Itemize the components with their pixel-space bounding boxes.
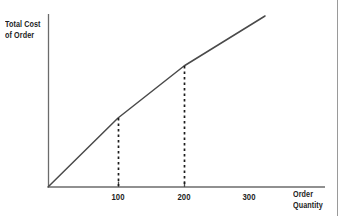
x-axis-label-line-1: Order [293, 190, 313, 199]
y-axis-label: Total Costof Order [5, 20, 41, 41]
y-axis-label-line-2: of Order [5, 31, 34, 40]
chart-plot-area [0, 0, 344, 216]
x-tick-label-100: 100 [112, 192, 125, 202]
x-tick-label-200: 200 [178, 192, 191, 202]
x-axis-label: OrderQuantity [293, 190, 323, 211]
chart-figure: Total Costof Order OrderQuantity 100 200… [0, 0, 344, 216]
x-axis-label-line-2: Quantity [293, 201, 323, 210]
page-right-border [337, 0, 338, 216]
x-tick-label-300: 300 [243, 192, 256, 202]
y-axis-label-line-1: Total Cost [5, 20, 41, 29]
total-cost-curve [48, 16, 265, 187]
